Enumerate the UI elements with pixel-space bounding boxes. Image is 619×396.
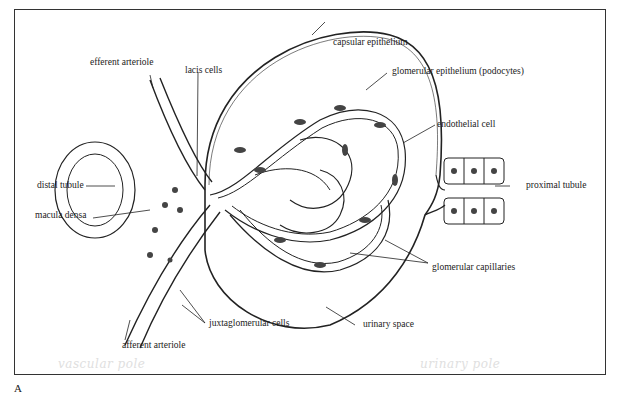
label-lacis-cells: lacis cells	[185, 66, 222, 76]
capillary-loop	[210, 110, 405, 242]
label-glomerular-capillaries: glomerular capillaries	[432, 263, 515, 273]
label-juxtaglomerular-cells: juxtaglomerular cells	[209, 319, 289, 329]
annotation-urinary-pole: urinary pole	[420, 357, 500, 371]
label-capsular-epithelium: capsular epithelium	[333, 38, 408, 48]
afferent-arteriole-vessel	[125, 205, 210, 345]
label-proximal-tubule: proximal tubule	[526, 181, 586, 191]
panel-label: A	[14, 382, 22, 394]
label-efferent-arteriole: efferent arteriole	[90, 58, 153, 68]
label-macula-densa: macula densa	[35, 211, 86, 221]
label-afferent-arteriole: afferent arteriole	[122, 341, 185, 351]
label-distal-tubule: distal tubule	[37, 181, 84, 191]
annotation-vascular-pole: vascular pole	[58, 357, 145, 371]
label-glomerular-epithelium: glomerular epithelium (podocytes)	[392, 67, 524, 77]
label-endothelial-cell: endothelial cell	[437, 120, 495, 130]
label-urinary-space: urinary space	[363, 320, 414, 330]
